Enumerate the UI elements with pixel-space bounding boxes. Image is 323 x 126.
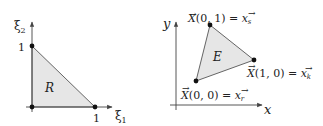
vertex-s-label: → X(0, 1) = xs → xyxy=(187,8,256,26)
reference-triangle-R xyxy=(32,46,95,107)
vertex-origin xyxy=(30,105,35,110)
svg-text:→: → xyxy=(241,85,249,95)
vertex-r xyxy=(194,79,199,84)
vertex-k-label: → X(1, 0) = xk → xyxy=(246,61,313,81)
x-axis-label: x xyxy=(264,102,272,117)
svg-text:→: → xyxy=(305,63,313,73)
svg-text:X(0, 1) = xs: X(0, 1) = xs xyxy=(187,12,252,26)
region-label-E: E xyxy=(212,50,222,64)
vertex-r-label: → X(0, 0) = xr → xyxy=(180,83,249,103)
y-axis-label: y xyxy=(162,16,171,31)
diagram-canvas: ξ2 1 R 1 ξ1 y x E → X(0, 1) = xs → → X(1… xyxy=(0,0,323,126)
xi1-tick-1: 1 xyxy=(93,112,100,125)
xi2-tick-1: 1 xyxy=(18,41,25,54)
xi1-axis-label: ξ1 xyxy=(115,109,127,125)
vertex-0-1 xyxy=(30,44,35,49)
svg-text:X(0, 0) = xr: X(0, 0) = xr xyxy=(180,89,245,103)
physical-element-diagram: y x E → X(0, 1) = xs → → X(1, 0) = xk → … xyxy=(162,8,313,117)
svg-text:→: → xyxy=(248,8,256,18)
physical-triangle-E xyxy=(196,25,254,81)
region-label-R: R xyxy=(44,81,54,95)
svg-text:X(1, 0) = xk: X(1, 0) = xk xyxy=(246,67,311,81)
vertex-1-0 xyxy=(93,105,98,110)
reference-element-diagram: ξ2 1 R 1 ξ1 xyxy=(14,19,127,125)
xi2-axis-label: ξ2 xyxy=(14,19,26,35)
